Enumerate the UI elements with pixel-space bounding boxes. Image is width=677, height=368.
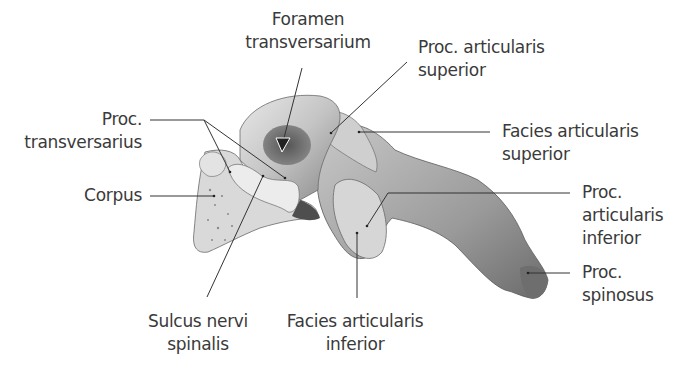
label-corpus: Corpus (0, 184, 142, 207)
label-facies-articularis-inferior: Facies articularis inferior (280, 310, 430, 356)
label-facies-articularis-superior: Facies articularis superior (502, 120, 639, 166)
foramen-hole-shape (263, 125, 311, 165)
label-proc-spinosus: Proc. spinosus (582, 261, 654, 307)
label-proc-articularis-superior: Proc. articularis superior (418, 36, 545, 82)
label-proc-articularis-inferior: Proc. articularis inferior (582, 181, 663, 250)
label-foramen-transversarium: Foramen transversarium (238, 8, 378, 54)
label-proc-transversarius: Proc. transversarius (0, 108, 142, 154)
label-sulcus-nervi-spinalis: Sulcus nervi spinalis (130, 310, 266, 356)
